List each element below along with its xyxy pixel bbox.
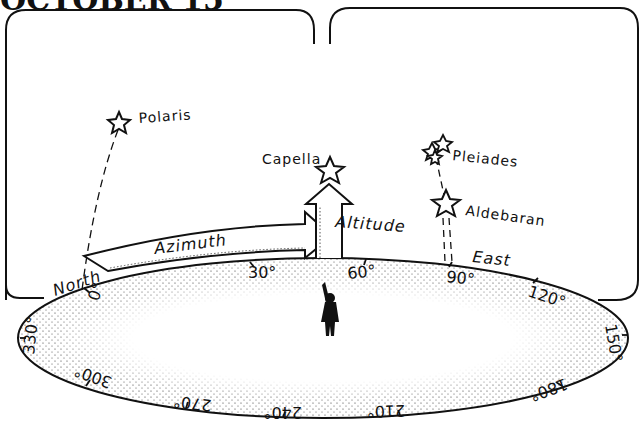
- aldebaran-star-icon: [432, 190, 460, 216]
- pleiades-star-cluster-icon: [423, 135, 452, 164]
- degree-210: 210°: [366, 401, 405, 421]
- pleiades-label: Pleiades: [452, 147, 520, 170]
- page-title: OCTOBER 15: [0, 0, 224, 17]
- sky-diagram: OCTOBER 15 Polaris Capella Pleiades Alde…: [0, 0, 643, 424]
- degree-90: 90°: [446, 267, 476, 289]
- aldebaran-dashed-line: [443, 218, 452, 262]
- degree-330: 330°: [19, 315, 42, 355]
- polaris-star-icon: [108, 112, 130, 133]
- capella-label: Capella: [262, 151, 321, 167]
- altitude-label: Altitude: [334, 212, 407, 236]
- degree-60: 60°: [346, 261, 376, 283]
- east-label: East: [472, 247, 512, 270]
- degree-270: 270°: [172, 392, 212, 415]
- aldebaran-label: Aldebaran: [465, 202, 547, 229]
- degree-240: 240°: [263, 403, 302, 422]
- left-panel-bottom: [6, 268, 44, 298]
- polaris-label: Polaris: [138, 106, 192, 126]
